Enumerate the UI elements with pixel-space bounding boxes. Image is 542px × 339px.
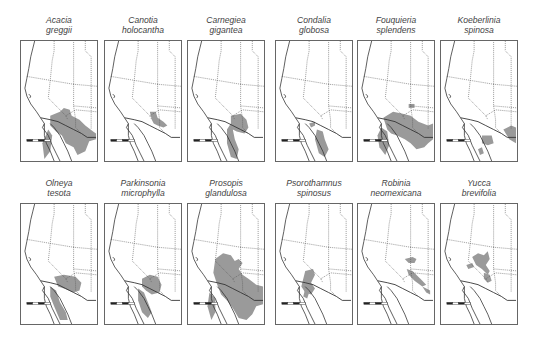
state-border (85, 204, 91, 249)
state-border (74, 106, 97, 108)
species-label: spinosa (430, 25, 528, 35)
distribution-map (187, 40, 265, 162)
species-title: Yucca brevifolia (430, 178, 528, 198)
state-border (194, 239, 264, 249)
state-border (422, 204, 428, 249)
state-border (111, 76, 181, 86)
coastline (280, 204, 309, 324)
species-label: gigantea (177, 25, 275, 35)
state-border (132, 80, 151, 119)
state-border (340, 41, 346, 86)
baja-coast (379, 287, 397, 324)
genus-label: Koeberlinia (430, 15, 528, 25)
range-area (472, 251, 490, 275)
scale-bar (447, 302, 470, 304)
species-title: Koeberlinia spinosa (430, 15, 528, 35)
genus-label: Yucca (430, 178, 528, 188)
state-border (385, 243, 404, 282)
scale-bar (111, 302, 134, 304)
us-mexico-border (460, 281, 516, 301)
bay-mark (196, 257, 198, 261)
state-border (364, 239, 434, 249)
distribution-map (20, 203, 98, 325)
coastline (280, 41, 309, 161)
state-border (329, 269, 352, 271)
state-border (321, 273, 352, 279)
coastline (445, 41, 474, 161)
scale-bar (194, 302, 217, 304)
state-border (158, 269, 181, 271)
coastline (25, 204, 54, 324)
bay-mark (366, 257, 368, 261)
baja-coast (462, 124, 480, 161)
range-area (383, 112, 433, 149)
state-border (470, 41, 474, 80)
state-border (252, 41, 258, 86)
state-border (158, 106, 181, 108)
gulf-coast (470, 287, 491, 324)
state-border (303, 80, 322, 119)
state-border (50, 41, 54, 80)
state-border (111, 239, 181, 249)
distribution-map (20, 40, 98, 162)
range-area (227, 114, 248, 159)
state-border (329, 84, 331, 119)
state-border (241, 106, 264, 108)
state-border (74, 269, 97, 271)
bay-mark (113, 94, 115, 98)
genus-label: Prosopis (177, 178, 275, 188)
state-border (215, 80, 234, 119)
state-border (447, 76, 517, 86)
state-border (194, 76, 264, 86)
range-area (503, 126, 516, 144)
state-border (505, 41, 511, 86)
state-border (50, 204, 54, 243)
scale-bar (27, 139, 50, 141)
scale-bar (111, 139, 134, 141)
gulf-coast (387, 287, 408, 324)
range-area (422, 287, 430, 295)
state-border (447, 239, 517, 249)
range-area (466, 263, 474, 269)
distribution-map (440, 203, 518, 325)
species-title: Prosopis glandulosa (177, 178, 275, 198)
baja-coast (297, 124, 315, 161)
scale-bar (364, 139, 387, 141)
bay-mark (449, 94, 451, 98)
coastline (109, 41, 138, 161)
bay-mark (196, 94, 198, 98)
bay-mark (366, 94, 368, 98)
range-area (50, 287, 68, 320)
state-border (241, 269, 264, 271)
state-border (305, 41, 309, 80)
distribution-map (357, 203, 435, 325)
state-border (217, 41, 221, 80)
species-label: brevifolia (430, 188, 528, 198)
distribution-map (187, 203, 265, 325)
scale-bar (447, 139, 470, 141)
range-area (213, 253, 263, 320)
state-border (364, 76, 434, 86)
distribution-map (440, 40, 518, 162)
baja-coast (209, 124, 227, 161)
bay-mark (29, 94, 31, 98)
distribution-map (275, 40, 353, 162)
state-border (340, 204, 346, 249)
state-border (158, 84, 160, 119)
state-border (134, 204, 138, 243)
genus-label: Carnegiea (177, 15, 275, 25)
coastline (192, 41, 221, 161)
state-border (505, 204, 511, 249)
state-border (85, 41, 91, 86)
state-border (494, 84, 496, 119)
state-border (411, 84, 413, 119)
state-border (411, 269, 434, 271)
state-border (282, 76, 352, 86)
state-border (252, 204, 258, 249)
state-border (27, 76, 97, 86)
range-area (478, 147, 484, 155)
state-border (217, 204, 221, 243)
species-label: glandulosa (177, 188, 275, 198)
state-border (494, 247, 496, 282)
state-border (486, 110, 517, 116)
